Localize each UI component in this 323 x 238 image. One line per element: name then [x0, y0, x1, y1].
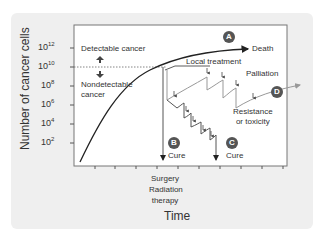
marker-b: B	[170, 138, 178, 147]
palliation-label: Palliation	[246, 69, 278, 78]
marker-c: C	[228, 138, 236, 147]
y-tick-6: 106	[41, 98, 54, 109]
marker-a: A	[225, 32, 233, 41]
death-label: Death	[252, 44, 273, 53]
y-axis-title: Number of cancer cells	[18, 27, 32, 150]
local-treatment-label: Local treatment	[186, 57, 241, 66]
y-tick-12: 1012	[38, 41, 55, 52]
nondetectable-label: Nondetectablecancer	[81, 80, 133, 100]
detectable-label: Detectable cancer	[81, 44, 145, 53]
y-tick-10: 1010	[38, 60, 55, 71]
marker-d: D	[273, 87, 281, 96]
y-axis-ticks	[70, 48, 74, 143]
y-tick-4: 104	[41, 117, 54, 128]
surgery-radiation-label: SurgeryRadiationtherapy	[149, 173, 181, 206]
y-tick-8: 108	[41, 79, 54, 90]
cure-c-label: Cure	[226, 151, 243, 160]
y-tick-2: 102	[41, 136, 54, 147]
cure-b-label: Cure	[168, 151, 185, 160]
resistance-label: Resistanceor toxicity	[233, 107, 273, 127]
x-axis-title: Time	[164, 209, 190, 223]
